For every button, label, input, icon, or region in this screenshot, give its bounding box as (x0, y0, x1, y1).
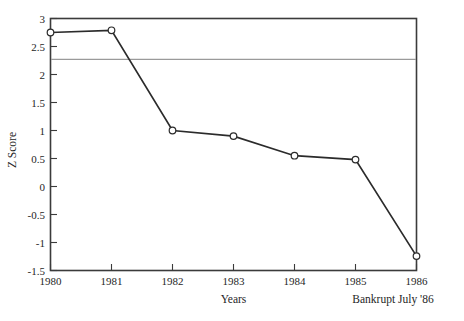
y-axis-ticks (51, 19, 58, 271)
x-tick-label-1983: 1983 (223, 275, 246, 287)
x-tick-label-1982: 1982 (162, 275, 184, 287)
data-point-1980 (47, 29, 54, 36)
data-point-1985 (352, 156, 359, 163)
y-tick-label-2_5: 2.5 (31, 41, 45, 53)
y-tick-label-0_5: 0.5 (31, 153, 45, 165)
data-point-1984 (291, 152, 298, 159)
y-tick-label-neg0_5: -0.5 (28, 209, 46, 221)
data-point-1983 (230, 133, 237, 140)
z-score-chart: 3 2.5 2 1.5 1 0.5 0 -0.5 -1 -1.5 1980 19… (0, 0, 464, 321)
z-score-markers (47, 27, 420, 259)
data-point-1981 (108, 27, 115, 34)
x-tick-label-1980: 1980 (40, 275, 63, 287)
data-point-1982 (169, 127, 176, 134)
x-tick-label-1985: 1985 (345, 275, 368, 287)
x-axis-tick-labels: 1980 1981 1982 1983 1984 1985 1986 (40, 275, 429, 287)
y-axis-tick-labels: 3 2.5 2 1.5 1 0.5 0 -0.5 -1 -1.5 (28, 13, 46, 277)
y-tick-label-3: 3 (40, 13, 46, 25)
y-tick-label-1: 1 (40, 125, 46, 137)
y-tick-label-2: 2 (40, 69, 46, 81)
x-tick-label-1981: 1981 (101, 275, 123, 287)
y-tick-label-0: 0 (40, 181, 46, 193)
plot-frame (51, 19, 417, 271)
y-axis-title: Z Score (6, 132, 18, 168)
x-axis-title: Years (221, 293, 247, 305)
z-score-line (51, 30, 417, 256)
data-point-1986 (413, 253, 420, 260)
x-axis-ticks (51, 264, 417, 271)
y-tick-label-1_5: 1.5 (31, 97, 45, 109)
x-tick-label-1984: 1984 (284, 275, 307, 287)
x-tick-label-1986: 1986 (406, 275, 429, 287)
chart-canvas: 3 2.5 2 1.5 1 0.5 0 -0.5 -1 -1.5 1980 19… (0, 0, 464, 321)
bankruptcy-annotation: Bankrupt July '86 (352, 293, 434, 306)
y-tick-label-neg1: -1 (36, 237, 45, 249)
